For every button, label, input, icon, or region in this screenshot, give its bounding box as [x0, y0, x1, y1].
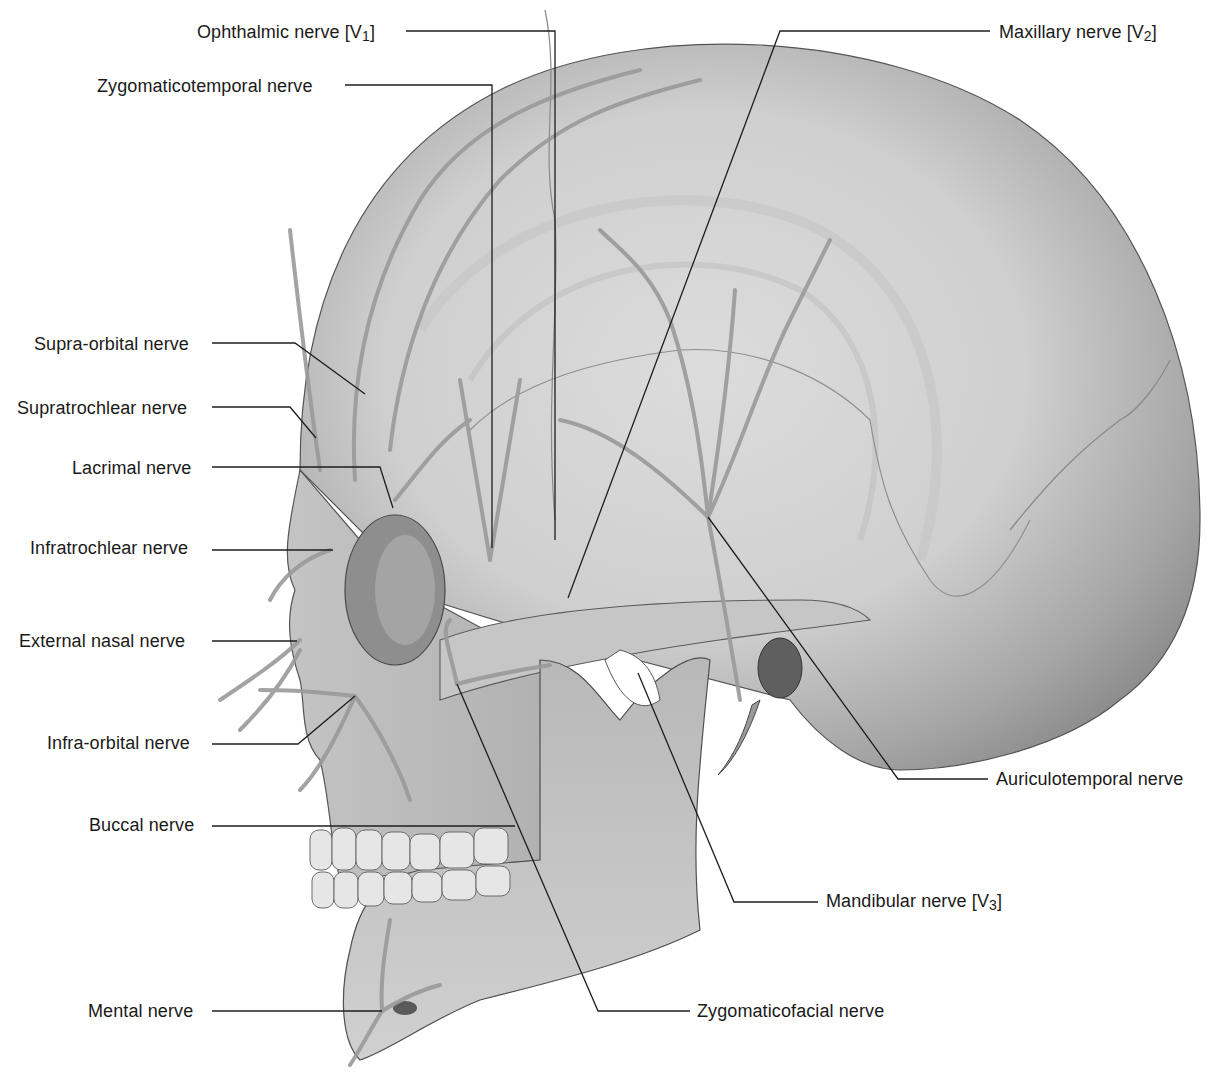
label-zygomaticotemporal-nerve: Zygomaticotemporal nerve — [97, 75, 313, 97]
label-mandibular-nerve: Mandibular nerve [V3] — [826, 890, 1002, 916]
label-maxillary-nerve: Maxillary nerve [V2] — [999, 21, 1157, 47]
label-buccal-nerve: Buccal nerve — [89, 814, 194, 836]
skull-trigeminal-diagram: Ophthalmic nerve [V1] Maxillary nerve [V… — [0, 0, 1215, 1081]
label-zygomaticofacial-nerve: Zygomaticofacial nerve — [697, 1000, 884, 1022]
styloid-process — [718, 700, 760, 775]
label-ophthalmic-nerve: Ophthalmic nerve [V1] — [197, 21, 375, 47]
label-supratrochlear-nerve: Supratrochlear nerve — [17, 397, 187, 419]
label-infra-orbital-nerve: Infra-orbital nerve — [47, 732, 190, 754]
label-external-nasal-nerve: External nasal nerve — [19, 630, 185, 652]
label-lacrimal-nerve: Lacrimal nerve — [72, 457, 191, 479]
label-mental-nerve: Mental nerve — [88, 1000, 193, 1022]
label-infratrochlear-nerve: Infratrochlear nerve — [30, 537, 188, 559]
external-acoustic-meatus — [758, 638, 802, 698]
label-supra-orbital-nerve: Supra-orbital nerve — [34, 333, 189, 355]
label-auriculotemporal-nerve: Auriculotemporal nerve — [996, 768, 1183, 790]
